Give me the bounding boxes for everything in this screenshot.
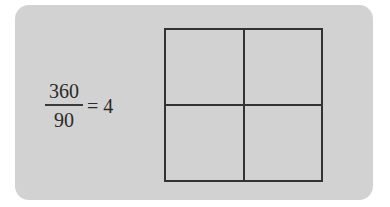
equation-result: = 4 xyxy=(87,95,113,118)
fraction: 360 90 xyxy=(45,80,83,131)
horizontal-divider xyxy=(166,104,321,106)
numerator: 360 xyxy=(48,80,80,102)
quadrant-square xyxy=(164,28,323,182)
fraction-bar xyxy=(45,104,83,106)
denominator: 90 xyxy=(53,109,75,131)
division-equation: 360 90 = 4 xyxy=(45,80,113,131)
